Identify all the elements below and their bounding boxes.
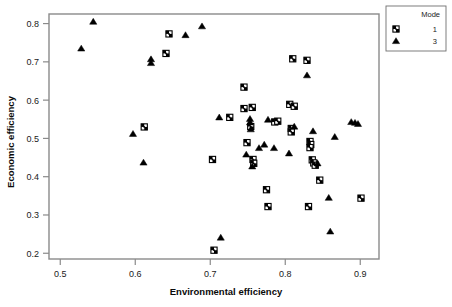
data-point <box>241 105 247 111</box>
data-point <box>227 114 233 120</box>
y-tick-label: 0.5 <box>26 134 39 144</box>
data-point <box>265 203 271 209</box>
y-tick-label: 0.4 <box>26 172 39 182</box>
figure-background <box>0 0 452 307</box>
data-point <box>166 31 172 37</box>
y-axis-title: Economic efficiency <box>5 95 16 188</box>
x-tick-label: 0.9 <box>354 269 367 279</box>
legend-title: Mode <box>421 10 440 19</box>
chart-canvas: 0.50.60.70.80.9 0.20.30.40.50.60.70.8 En… <box>0 0 452 307</box>
data-point <box>358 195 364 201</box>
data-point <box>317 177 323 183</box>
data-point <box>249 104 255 110</box>
y-tick-label: 0.7 <box>26 57 39 67</box>
data-point <box>263 187 269 193</box>
data-point <box>209 156 215 162</box>
data-point <box>141 124 147 130</box>
data-point <box>288 129 294 135</box>
data-point <box>244 140 250 146</box>
legend-marker-1 <box>393 26 399 32</box>
legend: Mode 13 <box>386 6 446 51</box>
data-point <box>304 57 310 63</box>
legend-label-1: 1 <box>433 25 437 34</box>
y-tick-label: 0.6 <box>26 96 39 106</box>
y-tick-label: 0.8 <box>26 19 39 29</box>
x-axis-title: Environmental efficiency <box>170 286 283 297</box>
data-point <box>241 84 247 90</box>
scatter-plot-figure: 0.50.60.70.80.9 0.20.30.40.50.60.70.8 En… <box>0 0 452 307</box>
x-tick-label: 0.7 <box>204 269 217 279</box>
data-point <box>291 103 297 109</box>
legend-label-3: 3 <box>433 37 437 46</box>
data-point <box>211 247 217 253</box>
data-point <box>307 145 313 151</box>
data-point <box>290 56 296 62</box>
x-tick-label: 0.5 <box>54 269 67 279</box>
data-point <box>163 50 169 56</box>
y-tick-label: 0.2 <box>26 249 39 259</box>
data-point <box>305 203 311 209</box>
x-tick-label: 0.6 <box>129 269 142 279</box>
y-tick-label: 0.3 <box>26 210 39 220</box>
x-tick-label: 0.8 <box>279 269 292 279</box>
data-point <box>275 118 281 124</box>
